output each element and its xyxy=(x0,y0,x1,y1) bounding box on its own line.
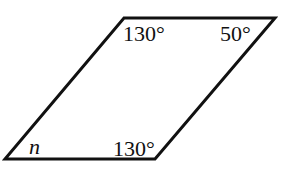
angle-label-bottom-right: 130° xyxy=(113,136,155,161)
angle-label-top-right: 50° xyxy=(220,21,251,46)
angle-label-top-left: 130° xyxy=(123,21,165,46)
parallelogram-diagram: 130° 50° 130° n xyxy=(0,0,295,177)
angle-label-bottom-left-variable: n xyxy=(29,134,40,159)
